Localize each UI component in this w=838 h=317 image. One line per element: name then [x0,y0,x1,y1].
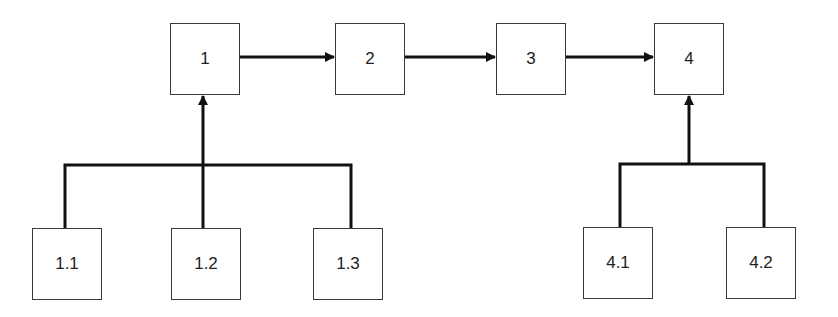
node-3: 3 [496,23,566,95]
node-label: 4 [684,49,693,69]
node-1-3: 1.3 [313,228,383,300]
node-label: 3 [526,49,535,69]
node-1-2: 1.2 [171,228,241,300]
node-label: 1 [200,49,209,69]
node-4-1: 4.1 [583,227,653,299]
bus-group-4 [620,164,764,227]
node-1-1: 1.1 [32,228,102,300]
node-2: 2 [335,23,405,95]
node-label: 2 [365,49,374,69]
node-4-2: 4.2 [726,227,796,299]
bus-group-1 [65,165,351,228]
node-label: 1.2 [194,254,218,274]
node-1: 1 [170,23,240,95]
node-label: 4.2 [749,253,773,273]
node-label: 1.3 [336,254,360,274]
node-label: 1.1 [55,254,79,274]
node-label: 4.1 [606,253,630,273]
node-4: 4 [654,23,724,95]
